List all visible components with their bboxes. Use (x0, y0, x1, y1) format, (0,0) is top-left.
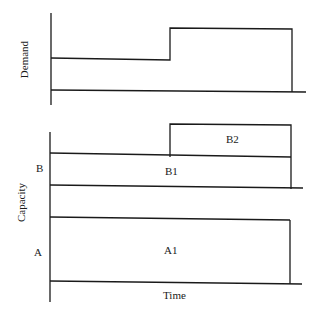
demand-axis-label: Demand (19, 40, 30, 80)
capacity-panel (50, 124, 303, 302)
demand-x-axis (51, 90, 306, 92)
demand-panel (51, 13, 306, 105)
block-a1-top (50, 217, 290, 220)
group-label-b: B (36, 163, 43, 174)
time-axis-label: Time (163, 290, 186, 301)
capacity-axis-label: Capacity (16, 178, 27, 228)
block-label-a1: A1 (164, 245, 177, 256)
demand-capacity-diagram (0, 0, 315, 312)
block-b1-bottom (50, 185, 303, 188)
block-label-b1: B1 (165, 166, 178, 177)
capacity-x-axis (50, 281, 302, 284)
demand-step-line (51, 28, 292, 92)
group-label-a: A (34, 247, 42, 258)
block-label-b2: B2 (226, 134, 239, 145)
